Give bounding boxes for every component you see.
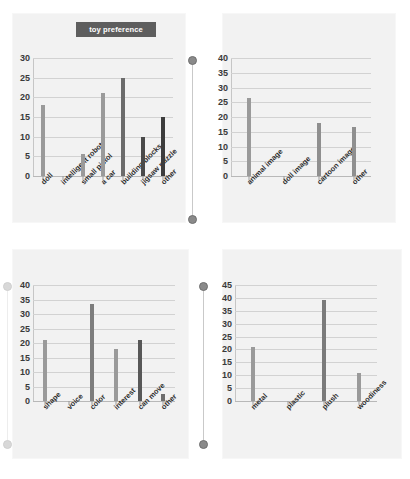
- gridline: [235, 311, 377, 312]
- handle-dot-bottom[interactable]: [188, 215, 197, 224]
- bar: [43, 340, 47, 401]
- handle-stem: [192, 60, 193, 220]
- gridline: [33, 358, 175, 359]
- gridline: [33, 372, 175, 373]
- y-axis-tick-label: 5: [25, 382, 30, 392]
- gridline: [235, 349, 377, 350]
- gridline: [33, 300, 175, 301]
- handle-dot-top[interactable]: [199, 282, 208, 291]
- y-axis-tick-label: 30: [222, 319, 232, 329]
- y-axis-tick-label: 25: [20, 324, 30, 334]
- y-axis-tick-label: 25: [222, 332, 232, 342]
- y-axis-tick-label: 5: [227, 383, 232, 393]
- y-axis-tick-label: 25: [20, 73, 30, 83]
- handle-dot-top[interactable]: [3, 282, 12, 291]
- y-axis-tick-label: 20: [20, 338, 30, 348]
- y-axis-line: [235, 285, 236, 401]
- bar: [141, 137, 145, 176]
- plot-area-toy-characteristics-preference: 0510152025303540shapevoicecolorinterestc…: [33, 285, 175, 401]
- plot-area-toy-preference: 051015202530dollintelligent robotsmall p…: [33, 58, 173, 176]
- y-axis-tick-label: 15: [20, 353, 30, 363]
- chart-grid: toy preference 051015202530dollintellige…: [0, 0, 410, 479]
- gridline: [33, 314, 175, 315]
- gridline: [231, 58, 371, 59]
- gridline: [235, 298, 377, 299]
- y-axis-tick-label: 35: [20, 295, 30, 305]
- plot-area-modeling-preference: 0510152025303540animal imagedoll imageca…: [231, 58, 371, 176]
- y-axis-tick-label: 0: [227, 396, 232, 406]
- y-axis-tick-label: 15: [20, 112, 30, 122]
- y-axis-tick-label: 10: [218, 142, 228, 152]
- y-axis-tick-label: 20: [218, 112, 228, 122]
- y-axis-tick-label: 45: [222, 280, 232, 290]
- handle-dot-bottom[interactable]: [3, 440, 12, 449]
- bar: [247, 98, 251, 176]
- bar: [101, 93, 105, 176]
- y-axis-tick-label: 15: [218, 127, 228, 137]
- y-axis-tick-label: 30: [218, 83, 228, 93]
- gridline: [231, 132, 371, 133]
- gridline: [235, 337, 377, 338]
- bar: [41, 105, 45, 176]
- gridline: [231, 117, 371, 118]
- chart-cell-toy-texture-preference: toy texture of material' preference 0510…: [205, 240, 410, 479]
- bar: [352, 127, 356, 176]
- bar: [251, 347, 255, 401]
- bar: [90, 304, 94, 401]
- bar: [121, 78, 125, 176]
- bar: [138, 340, 142, 401]
- y-axis-tick-label: 5: [223, 156, 228, 166]
- y-axis-tick-label: 30: [20, 309, 30, 319]
- handle-stem: [203, 286, 204, 445]
- selection-handle-left-toy-texture-preference[interactable]: [199, 282, 208, 449]
- y-axis-tick-label: 35: [222, 306, 232, 316]
- gridline: [33, 78, 173, 79]
- chart-cell-toy-characteristics-preference: toy characteristics' preference 05101520…: [0, 240, 205, 479]
- y-axis-tick-label: 40: [20, 280, 30, 290]
- chart-cell-modeling-preference: modeling preference 0510152025303540anim…: [205, 0, 410, 240]
- handle-dot-bottom[interactable]: [199, 440, 208, 449]
- gridline: [33, 58, 173, 59]
- bar: [322, 300, 326, 401]
- gridline: [235, 362, 377, 363]
- plot-area-toy-texture-preference: 051015202530354045metalplasticplushwoodi…: [235, 285, 377, 401]
- y-axis-tick-label: 20: [20, 92, 30, 102]
- handle-dot-top[interactable]: [188, 56, 197, 65]
- gridline: [33, 329, 175, 330]
- y-axis-tick-label: 20: [222, 344, 232, 354]
- y-axis-tick-label: 15: [222, 357, 232, 367]
- chart-cell-toy-preference: toy preference 051015202530dollintellige…: [0, 0, 205, 240]
- y-axis-tick-label: 40: [222, 293, 232, 303]
- y-axis-tick-label: 5: [25, 151, 30, 161]
- bar: [161, 117, 165, 176]
- selection-handle-left-toy-characteristics-preference[interactable]: [3, 282, 12, 449]
- gridline: [33, 285, 175, 286]
- bar: [317, 123, 321, 176]
- gridline: [235, 324, 377, 325]
- y-axis-tick-label: 10: [222, 370, 232, 380]
- y-axis-tick-label: 10: [20, 132, 30, 142]
- y-axis-tick-label: 25: [218, 97, 228, 107]
- gridline: [235, 388, 377, 389]
- chart-title-toy-preference: toy preference: [76, 22, 156, 37]
- y-axis-tick-label: 35: [218, 68, 228, 78]
- gridline: [235, 375, 377, 376]
- selection-handle-right-toy-preference[interactable]: [188, 56, 197, 224]
- handle-stem: [7, 286, 8, 445]
- gridline: [33, 343, 175, 344]
- bar: [357, 373, 361, 401]
- gridline: [231, 88, 371, 89]
- y-axis-tick-label: 40: [218, 53, 228, 63]
- bar: [114, 349, 118, 401]
- gridline: [231, 102, 371, 103]
- gridline: [231, 73, 371, 74]
- y-axis-tick-label: 0: [25, 171, 30, 181]
- y-axis-tick-label: 0: [223, 171, 228, 181]
- y-axis-tick-label: 30: [20, 53, 30, 63]
- y-axis-tick-label: 10: [20, 367, 30, 377]
- gridline: [235, 285, 377, 286]
- y-axis-tick-label: 0: [25, 396, 30, 406]
